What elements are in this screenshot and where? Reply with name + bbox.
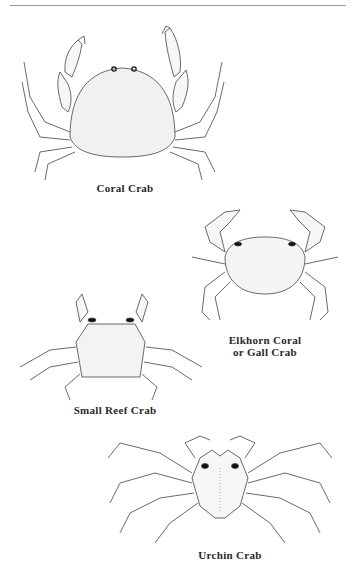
coral-crab-illustration	[10, 12, 235, 182]
small-reef-crab-caption: Small Reef Crab	[55, 404, 175, 416]
urchin-crab-illustration	[100, 428, 350, 548]
urchin-crab-drawing	[100, 428, 350, 548]
elkhorn-caption-line2: or Gall Crab	[205, 346, 325, 358]
elkhorn-caption-line1: Elkhorn Coral	[205, 334, 325, 346]
small-reef-crab-drawing	[10, 292, 210, 402]
small-reef-crab-illustration	[10, 292, 210, 402]
coral-crab-caption: Coral Crab	[70, 182, 180, 194]
header-rule	[10, 5, 346, 6]
elkhorn-caption: Elkhorn Coral or Gall Crab	[205, 334, 325, 358]
urchin-crab-caption: Urchin Crab	[170, 549, 290, 561]
coral-crab-drawing	[10, 12, 235, 182]
